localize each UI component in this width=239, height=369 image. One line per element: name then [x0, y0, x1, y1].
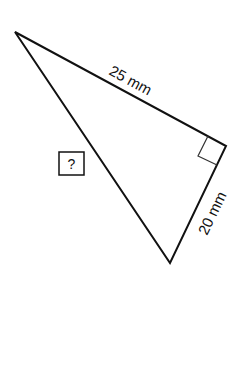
long-leg-label: 25 mm	[107, 62, 155, 99]
triangle-diagram: 25 mm 20 mm ?	[0, 0, 239, 369]
short-leg-label: 20 mm	[194, 189, 229, 238]
unknown-side-label: ?	[68, 156, 76, 172]
